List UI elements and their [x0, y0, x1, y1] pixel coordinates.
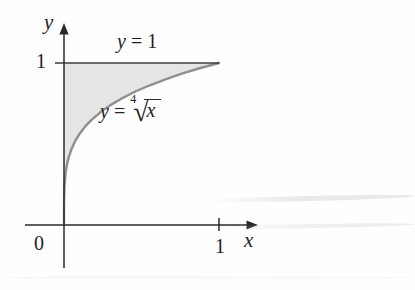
line-label-rhs: 1 — [147, 30, 157, 52]
y-axis-label: y — [44, 12, 53, 33]
y-tick-label-1: 1 — [36, 51, 46, 71]
root-index: 4 — [130, 92, 136, 106]
line-equation-label: y=1 — [117, 31, 157, 51]
curve-label-equals: = — [114, 100, 125, 122]
curve-equation-label: y=4√x — [100, 99, 161, 122]
x-axis-label: x — [244, 230, 253, 251]
curve-label-lhs: y — [100, 100, 109, 122]
line-label-lhs: y — [117, 30, 126, 52]
figure: y 1 y=1 y=4√x 0 1 x — [0, 0, 415, 290]
y-axis-arrowhead-icon — [59, 23, 68, 35]
origin-label: 0 — [34, 233, 44, 253]
shaded-region — [64, 63, 219, 225]
radicand: x — [144, 99, 162, 120]
figure-canvas — [0, 0, 415, 290]
line-label-equals: = — [131, 30, 142, 52]
fourth-root-expression: 4√x — [130, 99, 161, 122]
x-tick-label-1: 1 — [215, 236, 225, 256]
